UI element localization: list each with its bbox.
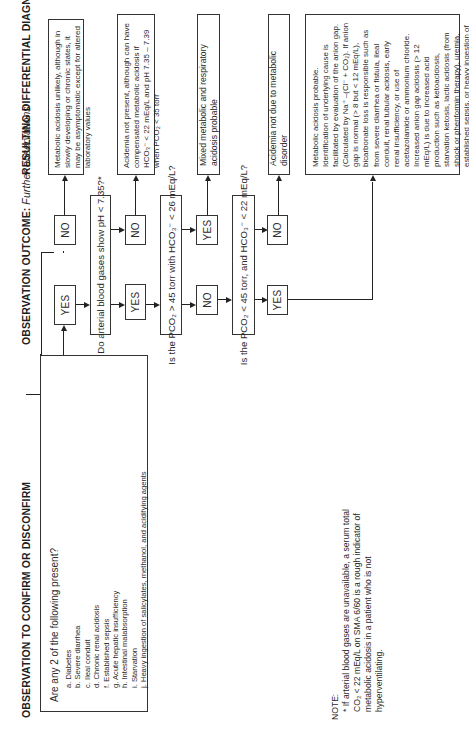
result-box-4: Acidemia not due to metabolic disorder [268, 14, 290, 175]
header-diagnosis: RESULTING DIFFERENTIAL DIAGNOSIS [20, 0, 32, 175]
connector [26, 394, 40, 395]
flowchart-page: OBSERVATION TO CONFIRM OR DISCONFIRM OBS… [0, 0, 469, 748]
connector [41, 252, 54, 253]
condition-item: f. Established sepsis [102, 365, 111, 688]
connector [182, 304, 190, 305]
condition-item: d. Chronic renal acidosis [92, 365, 101, 688]
arrow-icon [370, 175, 376, 181]
outcome-no-2: NO [125, 215, 146, 245]
arrow-icon [133, 175, 139, 181]
result-box-3: Mixed metabolic and respiratory acidosis… [197, 14, 220, 175]
arrow-icon [62, 175, 68, 181]
connector [63, 331, 64, 355]
outcome-yes-4: YES [267, 285, 288, 315]
result-box-1: Metabolic acidosis unlikely, although in… [48, 19, 84, 175]
outcome-yes-3: YES [196, 215, 218, 245]
connector [135, 181, 136, 215]
observation-question: Are any 2 of the following present? [49, 365, 60, 702]
header-outcome-label: OBSERVATION OUTCOME: [20, 208, 32, 345]
connector [182, 229, 190, 230]
condition-list: a. Diabetes b. Severe diarrhea c. Ileal … [64, 365, 149, 702]
connector [372, 182, 373, 300]
connector [255, 299, 262, 300]
condition-item: c. Ileal conduit [83, 365, 92, 688]
question-box-3: Is the PCO₂ < 45 torr, and HCO₃⁻ < 22 mE… [232, 195, 255, 335]
connector [111, 304, 119, 305]
condition-item: b. Severe diarrhea [73, 365, 82, 688]
result-box-2: Acidemia not present, although can have … [117, 14, 155, 175]
observation-box: Are any 2 of the following present? a. D… [40, 355, 148, 712]
connector [41, 252, 42, 356]
connector [255, 229, 262, 230]
header-observation: OBSERVATION TO CONFIRM OR DISCONFIRM [20, 482, 32, 718]
arrow-icon [276, 175, 282, 181]
connector [64, 181, 65, 215]
connector [288, 299, 372, 300]
condition-item: g. Acute hepatic insufficiency [111, 365, 120, 688]
footnote-label: NOTE: [330, 495, 341, 720]
connector [146, 304, 154, 305]
question-box-1: Do arterial blood gases show pH < 7.35?* [90, 195, 111, 335]
result-box-5: Metabolic acidosis probable. Identificat… [305, 14, 460, 175]
outcome-no-1: NO [54, 215, 76, 245]
connector [76, 304, 84, 305]
connector [63, 251, 64, 253]
condition-item: i. Starvation [130, 365, 139, 688]
condition-item: j. Heavy ingestion of salicylates, metha… [139, 450, 148, 688]
arrow-icon [61, 325, 67, 331]
outcome-no-4: NO [267, 215, 288, 245]
condition-item: h. Intestinal malabsorption [120, 365, 129, 688]
condition-item: a. Diabetes [64, 365, 73, 688]
outcome-yes-2: YES [125, 284, 146, 320]
connector [218, 299, 226, 300]
footnote-text: * If arterial blood gases are unavailabl… [341, 495, 385, 720]
connector [111, 229, 119, 230]
footnote: NOTE: * If arterial blood gases are unav… [330, 495, 385, 720]
question-box-2: Is the PCO₂ > 45 torr with HCO₃⁻ < 26 mE… [160, 195, 182, 335]
arrow-icon [205, 175, 211, 181]
connector [278, 181, 279, 215]
outcome-no-3: NO [196, 285, 218, 315]
outcome-yes-1: YES [54, 285, 76, 325]
connector [207, 181, 208, 215]
